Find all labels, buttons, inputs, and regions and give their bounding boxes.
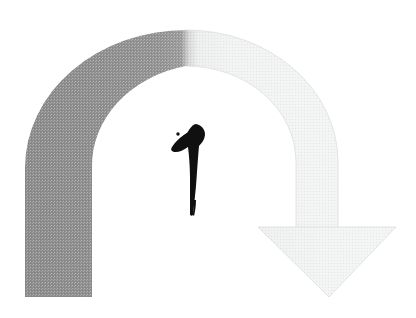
curved-arrow	[0, 0, 416, 318]
figure-svg	[0, 0, 416, 318]
image-canvas	[0, 0, 416, 318]
ink-dot	[176, 132, 179, 135]
